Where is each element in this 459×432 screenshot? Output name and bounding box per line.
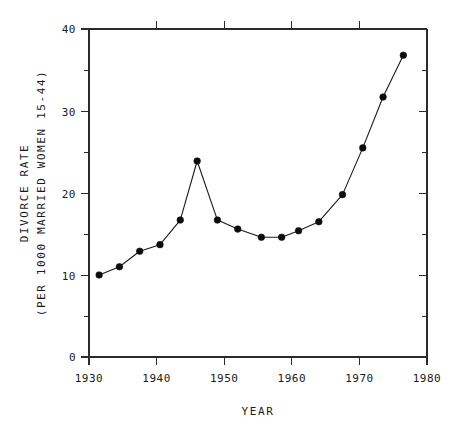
y-tick-label: 0 — [69, 351, 76, 364]
data-point — [194, 158, 201, 165]
data-point — [214, 217, 221, 224]
y-tick-label: 30 — [62, 106, 76, 119]
y-tick-label: 40 — [62, 23, 76, 36]
x-tick-label: 1950 — [210, 372, 239, 385]
data-point — [339, 191, 346, 198]
x-axis-title: YEAR — [242, 405, 275, 418]
chart-background — [0, 0, 459, 432]
data-point — [136, 248, 143, 255]
divorce-rate-line-chart: 0 10 20 30 40 1930 1940 1950 1960 1970 1… — [0, 0, 459, 432]
y-tick-label: 20 — [62, 188, 76, 201]
data-point — [96, 272, 103, 279]
data-point — [359, 145, 366, 152]
y-tick-label: 10 — [62, 270, 76, 283]
x-tick-label: 1930 — [75, 372, 104, 385]
data-point — [157, 241, 164, 248]
data-point — [295, 227, 302, 234]
data-point — [116, 264, 123, 271]
y-axis-title-line1: DIVORCE RATE — [18, 144, 31, 243]
x-tick-label: 1970 — [345, 372, 374, 385]
x-tick-label: 1960 — [278, 372, 307, 385]
x-tick-label: 1980 — [413, 372, 442, 385]
y-axis-title-line2: (PER 1000 MARRIED WOMEN 15-44) — [35, 70, 48, 317]
data-point — [400, 52, 407, 59]
data-point — [258, 234, 265, 241]
data-point — [380, 94, 387, 101]
data-point — [316, 218, 323, 225]
data-point — [234, 226, 241, 233]
data-point — [177, 217, 184, 224]
x-tick-label: 1940 — [142, 372, 171, 385]
data-point — [278, 234, 285, 241]
